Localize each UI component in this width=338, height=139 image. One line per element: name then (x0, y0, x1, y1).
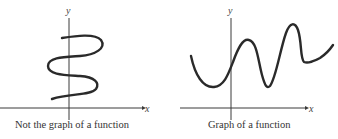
left-x-label: x (144, 103, 150, 114)
right-x-label: x (308, 103, 314, 114)
left-s-curve (48, 36, 103, 99)
right-caption: Graph of a function (208, 119, 291, 130)
left-caption: Not the graph of a function (15, 119, 129, 130)
left-y-label: y (65, 5, 71, 16)
right-y-label: y (227, 5, 233, 16)
left-graph: y x (0, 5, 150, 120)
right-graph: y x (180, 5, 333, 120)
right-function-curve (191, 24, 333, 87)
